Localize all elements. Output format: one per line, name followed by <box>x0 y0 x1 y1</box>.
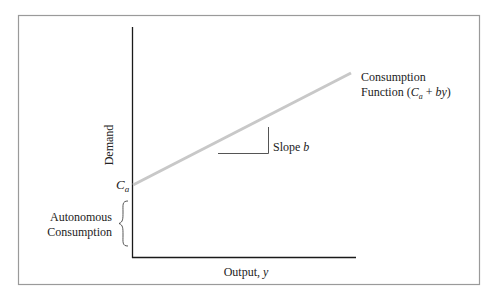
y-axis-label: Demand <box>102 125 116 166</box>
function-label-line2: Function (Ca + by) <box>361 85 451 101</box>
autonomous-consumption-label-line1: Autonomous <box>50 210 112 224</box>
consumption-function-diagram: Demand Ca Autonomous Consumption Slope b… <box>0 0 504 298</box>
slope-label: Slope b <box>273 140 309 154</box>
autonomous-consumption-label-line2: Consumption <box>47 225 112 239</box>
diagram-frame <box>19 16 480 285</box>
function-label-line1: Consumption <box>361 70 426 84</box>
x-axis-label: Output, y <box>224 265 269 279</box>
